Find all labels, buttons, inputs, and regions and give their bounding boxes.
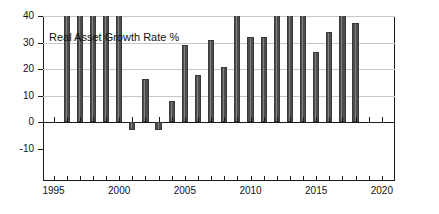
y-axis-tick-label: 40 bbox=[0, 11, 34, 21]
x-axis-bottom-tick bbox=[356, 176, 357, 181]
bar-highlight bbox=[341, 16, 342, 121]
bar bbox=[261, 37, 267, 122]
bar bbox=[142, 79, 148, 123]
x-axis-zero-tick bbox=[342, 117, 343, 122]
x-axis-bottom-tick bbox=[382, 176, 383, 181]
x-axis-bottom-tick bbox=[80, 176, 81, 181]
bar-highlight bbox=[223, 68, 224, 122]
bar bbox=[195, 75, 201, 123]
bar-highlight bbox=[144, 80, 145, 122]
x-axis-zero-tick bbox=[290, 117, 291, 122]
bar-highlight bbox=[328, 33, 329, 121]
x-axis-bottom-tick bbox=[277, 176, 278, 181]
bar bbox=[313, 52, 319, 122]
bar bbox=[208, 40, 214, 122]
x-axis-zero-tick bbox=[185, 117, 186, 122]
bar-highlight bbox=[131, 123, 132, 129]
bar-highlight bbox=[276, 16, 277, 121]
x-axis-zero-tick bbox=[303, 117, 304, 122]
x-axis-tick-label: 1995 bbox=[34, 185, 74, 196]
y-axis-tick-label: 0 bbox=[0, 117, 34, 127]
bar bbox=[155, 122, 161, 130]
bar-highlight bbox=[158, 123, 159, 129]
bar bbox=[352, 23, 358, 123]
bar-highlight bbox=[289, 16, 290, 121]
x-axis-zero-tick bbox=[264, 117, 265, 122]
x-axis-bottom-tick bbox=[145, 176, 146, 181]
x-axis-zero-tick bbox=[67, 117, 68, 122]
bar bbox=[234, 16, 240, 122]
bar bbox=[182, 45, 188, 122]
y-axis-tick-label: 30 bbox=[0, 38, 34, 48]
bar-highlight bbox=[236, 16, 237, 121]
x-axis-bottom-tick bbox=[54, 176, 55, 181]
x-axis-zero-tick bbox=[224, 117, 225, 122]
x-axis-bottom-tick bbox=[342, 176, 343, 181]
x-axis-zero-tick bbox=[93, 117, 94, 122]
x-axis-zero-tick bbox=[145, 117, 146, 122]
x-axis-bottom-tick bbox=[93, 176, 94, 181]
bar-highlight bbox=[184, 46, 185, 121]
x-axis-tick-label: 2000 bbox=[99, 185, 139, 196]
bar-highlight bbox=[210, 41, 211, 121]
x-axis-bottom-tick bbox=[119, 176, 120, 181]
chart-figure: -10010203040 199520002005201020152020 Re… bbox=[0, 0, 439, 214]
x-axis-tick-label: 2010 bbox=[231, 185, 271, 196]
x-axis-tick-label: 2020 bbox=[362, 185, 402, 196]
x-axis-bottom-tick bbox=[159, 176, 160, 181]
x-axis-zero-tick bbox=[198, 117, 199, 122]
y-axis-tick-label: 20 bbox=[0, 64, 34, 74]
bar-highlight bbox=[250, 38, 251, 121]
bar bbox=[221, 67, 227, 123]
x-axis-tick-label: 2015 bbox=[296, 185, 336, 196]
x-axis-zero-tick bbox=[172, 117, 173, 122]
x-axis-bottom-tick bbox=[316, 176, 317, 181]
x-axis-bottom-tick bbox=[329, 176, 330, 181]
x-axis-bottom-tick bbox=[290, 176, 291, 181]
x-axis-zero-tick bbox=[132, 117, 133, 122]
x-axis-bottom-tick bbox=[251, 176, 252, 181]
y-axis-tick bbox=[38, 149, 43, 150]
x-axis-zero-tick bbox=[382, 117, 383, 122]
chart-title: Real Asset Growth Rate % bbox=[49, 31, 179, 43]
x-axis-zero-tick bbox=[277, 117, 278, 122]
x-axis-zero-tick bbox=[106, 117, 107, 122]
bar bbox=[129, 122, 135, 130]
bar bbox=[300, 16, 306, 122]
x-axis-bottom-tick bbox=[198, 176, 199, 181]
bar bbox=[326, 32, 332, 122]
x-axis-zero-tick bbox=[119, 117, 120, 122]
x-axis-zero-tick bbox=[329, 117, 330, 122]
bar bbox=[339, 16, 345, 122]
x-axis-zero-tick bbox=[159, 117, 160, 122]
x-axis-bottom-tick bbox=[303, 176, 304, 181]
x-axis-zero-tick bbox=[80, 117, 81, 122]
x-axis-bottom-tick bbox=[67, 176, 68, 181]
y-axis-tick-label: -10 bbox=[0, 144, 34, 154]
x-axis-bottom-tick bbox=[172, 176, 173, 181]
bar-highlight bbox=[197, 76, 198, 122]
bar bbox=[274, 16, 280, 122]
x-axis-bottom-tick bbox=[185, 176, 186, 181]
bar-highlight bbox=[263, 38, 264, 121]
x-axis-zero-tick bbox=[356, 117, 357, 122]
bar-highlight bbox=[355, 24, 356, 122]
x-axis-bottom-tick bbox=[264, 176, 265, 181]
bar bbox=[247, 37, 253, 122]
x-axis-bottom-tick bbox=[106, 176, 107, 181]
x-axis-zero-tick bbox=[316, 117, 317, 122]
x-axis-zero-tick bbox=[369, 117, 370, 122]
bar bbox=[287, 16, 293, 122]
x-axis-bottom-tick bbox=[132, 176, 133, 181]
x-axis-zero-tick bbox=[54, 117, 55, 122]
bar-highlight bbox=[302, 16, 303, 121]
x-axis-bottom-tick bbox=[211, 176, 212, 181]
y-axis-tick-label: 10 bbox=[0, 91, 34, 101]
x-axis-bottom-tick bbox=[369, 176, 370, 181]
x-axis-tick-label: 2005 bbox=[165, 185, 205, 196]
x-axis-zero-tick bbox=[237, 117, 238, 122]
x-axis-bottom-tick bbox=[237, 176, 238, 181]
bar-highlight bbox=[315, 53, 316, 121]
x-axis-zero-tick bbox=[211, 117, 212, 122]
x-axis-zero-tick bbox=[251, 117, 252, 122]
